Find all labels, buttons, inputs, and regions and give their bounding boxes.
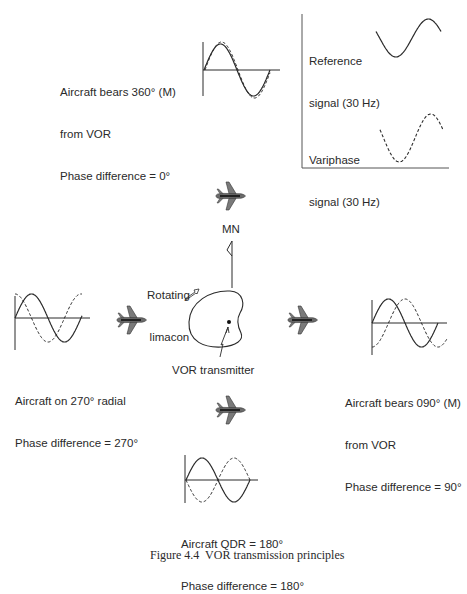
vor-transmitter-label: VOR transmitter (172, 363, 254, 377)
variphase-freq: signal (30 Hz) (309, 195, 380, 209)
north-bearing-text: Aircraft bears 360° (M) (60, 85, 176, 99)
aircraft-east-icon (288, 306, 318, 334)
vor-transmitter-dot (227, 320, 231, 324)
waveform-north (203, 42, 280, 98)
east-from-text: from VOR (345, 438, 462, 452)
transmitter-pointer-icon (220, 327, 229, 357)
reference-title: Reference (309, 54, 380, 68)
east-phase-text: Phase difference = 90° (345, 480, 462, 494)
limacon-line-1: Rotating (147, 288, 190, 302)
magnetic-north-label: MN (222, 222, 240, 236)
figure-caption: Figure 4.4 VOR transmission principles (150, 548, 344, 563)
reference-signal-label: Reference signal (30 Hz) (309, 26, 380, 124)
north-phase-text: Phase difference = 0° (60, 169, 176, 183)
east-bearing-text: Aircraft bears 090° (M) (345, 396, 462, 410)
variphase-title: Variphase (309, 153, 380, 167)
west-phase-text: Phase difference = 270° (15, 436, 138, 450)
magnetic-north-arrow-icon (227, 241, 232, 288)
west-radial-text: Aircraft on 270° radial (15, 394, 138, 408)
south-phase-text: Phase difference = 180° (181, 579, 304, 593)
aircraft-north-icon (216, 182, 246, 210)
limacon-shape (189, 291, 243, 347)
aircraft-south-icon (216, 396, 246, 424)
waveform-south (185, 455, 258, 503)
reference-freq: signal (30 Hz) (309, 96, 380, 110)
east-position-label: Aircraft bears 090° (M) from VOR Phase d… (345, 368, 462, 508)
waveform-west (15, 294, 90, 350)
rotating-limacon-label: Rotating limacon (147, 260, 190, 358)
waveform-east (372, 299, 447, 355)
north-position-label: Aircraft bears 360° (M) from VOR Phase d… (60, 57, 176, 197)
north-from-text: from VOR (60, 127, 176, 141)
variphase-signal-label: Variphase signal (30 Hz) (309, 125, 380, 223)
west-position-label: Aircraft on 270° radial Phase difference… (15, 366, 138, 464)
limacon-line-2: limacon (147, 330, 190, 344)
reference-wave (376, 19, 441, 57)
variphase-wave (380, 114, 443, 162)
aircraft-west-icon (117, 306, 147, 334)
